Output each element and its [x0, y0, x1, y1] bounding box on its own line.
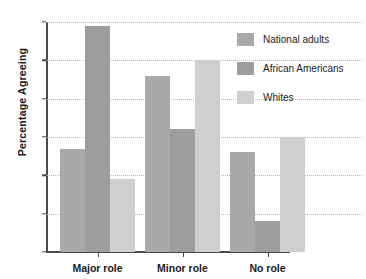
legend-item[interactable]: Whites — [237, 87, 344, 108]
bar — [255, 221, 280, 252]
legend-item[interactable]: African Americans — [237, 58, 344, 79]
bar-group — [145, 22, 220, 252]
y-axis-title: Percentage Agreeing — [16, 22, 28, 182]
y-tick-mark — [42, 175, 46, 176]
legend: National adultsAfrican AmericansWhites — [237, 29, 344, 116]
x-tick-mark — [183, 252, 184, 257]
bar-group — [60, 22, 135, 252]
bar — [230, 152, 255, 252]
legend-item[interactable]: National adults — [237, 29, 344, 50]
y-tick-mark — [42, 60, 46, 61]
legend-label: African Americans — [263, 63, 344, 74]
legend-swatch-icon — [237, 33, 254, 46]
bar — [170, 129, 195, 252]
x-category-label: No role — [203, 262, 333, 274]
y-tick-mark — [42, 21, 46, 22]
x-tick-mark — [268, 252, 269, 257]
y-tick-mark — [42, 136, 46, 137]
bar — [110, 179, 135, 252]
y-tick-mark — [42, 213, 46, 214]
bar — [145, 76, 170, 252]
y-tick-mark — [42, 98, 46, 99]
y-tick-mark — [42, 251, 46, 252]
bar — [280, 137, 305, 252]
bar-chart: Percentage Agreeing 0102030405060 Major … — [0, 0, 366, 279]
legend-label: National adults — [263, 34, 329, 45]
bar — [85, 26, 110, 252]
legend-swatch-icon — [237, 62, 254, 75]
legend-swatch-icon — [237, 91, 254, 104]
legend-label: Whites — [263, 92, 294, 103]
x-tick-mark — [98, 252, 99, 257]
bar — [60, 149, 85, 253]
bar — [195, 60, 220, 252]
